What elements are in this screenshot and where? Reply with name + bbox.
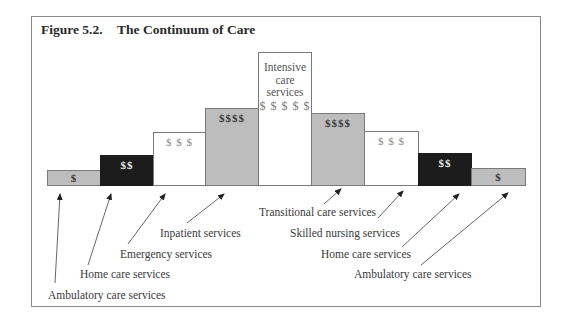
label-emergency: Emergency services bbox=[120, 248, 212, 260]
label-home-care-left: Home care services bbox=[80, 268, 170, 280]
figure-caption: The Continuum of Care bbox=[117, 22, 255, 37]
bar-home-care-left: $$ bbox=[100, 155, 154, 186]
cost-label: $ $ $ bbox=[365, 135, 418, 147]
intensive-line-1: Intensive bbox=[259, 61, 311, 74]
cost-label: $$$$ bbox=[206, 112, 258, 124]
label-ambulatory-right: Ambulatory care services bbox=[354, 268, 472, 280]
cost-label: $$ bbox=[101, 159, 153, 171]
bar-intensive-care: Intensive care services $ $ $ $ $ bbox=[258, 52, 312, 186]
cost-label: $$ bbox=[419, 157, 471, 169]
label-inpatient: Inpatient services bbox=[160, 227, 241, 239]
label-ambulatory-left: Ambulatory care services bbox=[48, 289, 166, 301]
cost-label: $ $ $ $ $ bbox=[259, 99, 311, 114]
bar-emergency: $ $ $ bbox=[153, 132, 206, 186]
bar-transitional: $$$$ bbox=[311, 113, 365, 186]
bar-ambulatory-left: $ bbox=[47, 170, 101, 186]
figure-title: Figure 5.2.The Continuum of Care bbox=[41, 22, 255, 38]
cost-label: $ bbox=[472, 171, 525, 183]
label-skilled-nursing: Skilled nursing services bbox=[290, 227, 400, 239]
bar-skilled-nursing: $ $ $ bbox=[364, 131, 419, 186]
label-transitional: Transitional care services bbox=[259, 206, 376, 218]
figure-number: Figure 5.2. bbox=[41, 22, 117, 38]
label-home-care-right: Home care services bbox=[321, 248, 411, 260]
bar-ambulatory-right: $ bbox=[471, 168, 526, 186]
intensive-line-2: care bbox=[259, 74, 311, 87]
cost-label: $ bbox=[48, 172, 100, 184]
cost-label: $ $ $ bbox=[154, 136, 205, 148]
cost-label: $$$$ bbox=[312, 117, 364, 129]
bar-inpatient: $$$$ bbox=[205, 108, 259, 186]
bar-home-care-right: $$ bbox=[418, 153, 472, 186]
intensive-line-3: services bbox=[259, 86, 311, 99]
